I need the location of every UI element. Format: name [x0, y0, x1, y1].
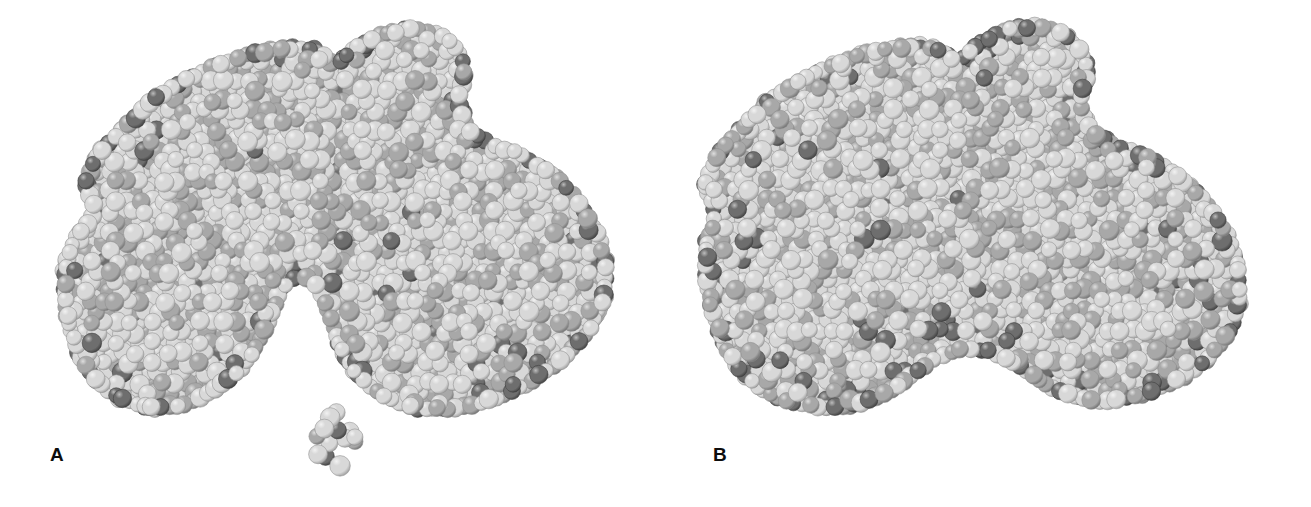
atom-sphere [870, 342, 890, 362]
atom-sphere [307, 275, 326, 294]
atom-sphere [871, 220, 891, 240]
atom-sphere [365, 63, 381, 79]
atom-sphere [229, 366, 244, 381]
atom-sphere [161, 120, 181, 140]
atom-sphere [836, 284, 852, 300]
atom-sphere [997, 349, 1015, 367]
atom-sphere [377, 81, 396, 100]
atom-sphere [214, 312, 234, 332]
atom-sphere [848, 101, 865, 118]
atom-sphere [1071, 212, 1088, 229]
atom-sphere [1057, 129, 1074, 146]
atom-sphere [1167, 210, 1185, 228]
panel-a [0, 0, 655, 507]
atom-sphere [121, 315, 137, 331]
atom-sphere [93, 141, 112, 160]
atom-sphere [1166, 188, 1185, 207]
atom-sphere [745, 270, 764, 289]
atom-sphere [1086, 125, 1105, 144]
atom-sphere [539, 252, 555, 268]
atom-sphere [876, 290, 895, 309]
atom-sphere [1025, 366, 1043, 384]
atom-sphere [836, 323, 854, 341]
ligand-atom-sphere [330, 456, 351, 477]
atom-sphere [762, 240, 780, 258]
atom-sphere [427, 282, 444, 299]
atom-sphere [174, 285, 191, 302]
atom-sphere [715, 241, 733, 259]
atom-sphere [801, 322, 817, 338]
atom-sphere [698, 248, 717, 267]
atom-sphere [951, 341, 968, 358]
atom-sphere [407, 293, 424, 310]
atom-sphere [957, 322, 975, 340]
atom-sphere [877, 42, 892, 57]
atom-sphere [817, 212, 834, 229]
atom-sphere [728, 200, 746, 218]
atom-sphere [796, 354, 812, 370]
atom-sphere [889, 191, 905, 207]
atom-sphere [304, 241, 322, 259]
molecule-render-b [655, 0, 1311, 507]
atom-sphere [265, 272, 281, 288]
atom-sphere [66, 330, 81, 345]
atom-sphere [336, 71, 354, 89]
atom-sphere [1122, 301, 1142, 321]
atom-sphere [919, 100, 939, 120]
atom-sphere [1059, 353, 1077, 371]
atom-sphere [823, 159, 843, 179]
atom-sphere [190, 353, 209, 372]
atom-sphere [1169, 167, 1187, 185]
atom-sphere [1188, 185, 1204, 201]
atom-sphere [1124, 222, 1140, 238]
atom-sphere [1183, 242, 1202, 261]
atom-sphere [460, 323, 478, 341]
atom-sphere [1020, 128, 1040, 148]
atom-sphere [710, 319, 729, 338]
atom-sphere [268, 142, 287, 161]
atom-sphere [1023, 231, 1042, 250]
atom-sphere [1005, 140, 1021, 156]
atom-sphere [1136, 201, 1154, 219]
atom-sphere [304, 83, 320, 99]
atom-sphere [420, 212, 436, 228]
atom-sphere [708, 149, 726, 167]
atom-sphere [341, 104, 357, 120]
atom-sphere [317, 295, 334, 312]
atom-sphere [889, 311, 909, 331]
atom-sphere [944, 240, 962, 258]
atom-sphere [528, 214, 546, 232]
atom-sphere [963, 270, 981, 288]
atom-sphere [597, 259, 614, 276]
atom-sphere [238, 171, 258, 191]
atom-sphere [169, 315, 185, 331]
atom-sphere [430, 375, 449, 394]
atom-sphere [387, 24, 405, 42]
atom-sphere [221, 282, 239, 300]
atom-sphere [578, 209, 597, 228]
atom-sphere [1147, 340, 1167, 360]
atom-sphere [818, 250, 838, 270]
atom-sphere [848, 302, 867, 321]
atom-sphere [405, 133, 423, 151]
atom-sphere [86, 369, 105, 388]
panel-label-a: A [50, 445, 64, 464]
atom-sphere [741, 342, 760, 361]
atom-sphere [414, 264, 431, 281]
atom-sphere [850, 48, 865, 63]
atom-sphere [777, 219, 796, 238]
atom-sphere [497, 242, 514, 259]
atom-sphere [738, 219, 757, 238]
atom-sphere [339, 48, 354, 63]
atom-sphere [412, 322, 431, 341]
atom-sphere [443, 231, 462, 250]
atom-sphere [78, 173, 95, 190]
atom-sphere [1062, 321, 1081, 340]
atom-sphere [705, 220, 721, 236]
atom-sphere [113, 389, 131, 407]
atom-sphere [1142, 382, 1160, 400]
atom-sphere [170, 398, 186, 414]
atom-sphere [1041, 242, 1057, 258]
atom-sphere [390, 160, 408, 178]
atom-sphere [803, 397, 820, 414]
